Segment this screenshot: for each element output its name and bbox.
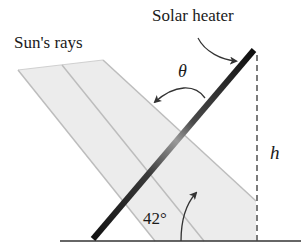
solar-heater-label: Solar heater: [152, 6, 234, 26]
angle-label: 42°: [143, 209, 167, 229]
sun-rays-label: Sun's rays: [14, 33, 83, 53]
height-label: h: [270, 142, 280, 164]
theta-arc-arrow-icon: [155, 88, 205, 102]
theta-label: θ: [178, 61, 187, 82]
solar-heater-diagram: Sun's rays Solar heater θ h 42°: [0, 0, 301, 249]
heater-label-arrow-icon: [198, 38, 236, 61]
